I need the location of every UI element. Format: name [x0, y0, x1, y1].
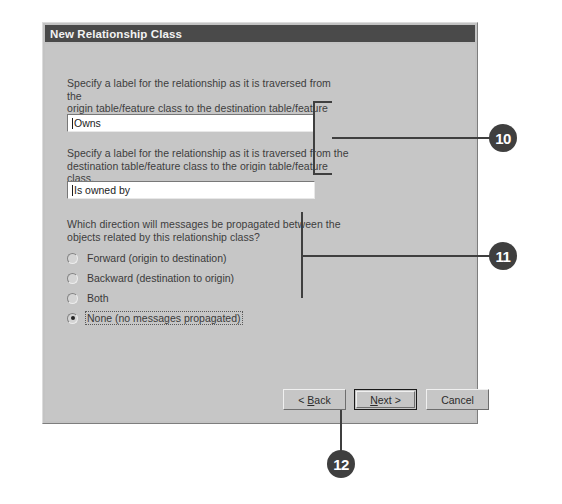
- dialog-client-area: Specify a label for the relationship as …: [45, 44, 475, 421]
- new-relationship-class-dialog: New Relationship Class Specify a label f…: [42, 22, 478, 424]
- radio-option-forward[interactable]: Forward (origin to destination): [67, 248, 243, 268]
- radio-option-label: None (no messages propagated): [85, 311, 243, 325]
- radio-button-icon: [67, 313, 78, 324]
- forward-label-input[interactable]: Owns: [67, 114, 315, 132]
- cancel-button-label: Cancel: [441, 394, 474, 406]
- dialog-titlebar[interactable]: New Relationship Class: [45, 25, 475, 42]
- radio-option-backward[interactable]: Backward (destination to origin): [67, 268, 243, 288]
- back-button-prefix: <: [298, 394, 307, 406]
- callout-10-leader-line: [332, 137, 497, 139]
- radio-button-icon: [67, 293, 78, 304]
- callout-12-leader-line: [340, 410, 342, 455]
- backward-label-input[interactable]: Is owned by: [67, 181, 315, 199]
- callout-10: 10: [489, 124, 517, 152]
- radio-option-none[interactable]: None (no messages propagated): [67, 308, 243, 328]
- message-direction-prompt: Which direction will messages be propaga…: [67, 218, 357, 243]
- radio-option-label: Forward (origin to destination): [85, 251, 228, 265]
- callout-11: 11: [489, 242, 517, 270]
- next-button-accel: N: [370, 394, 378, 406]
- callout-10-bracket-vertical: [313, 101, 315, 175]
- radio-button-icon: [67, 273, 78, 284]
- radio-option-label: Both: [85, 291, 111, 305]
- backward-label-input-value: Is owned by: [74, 184, 130, 196]
- forward-label-input-value: Owns: [74, 117, 101, 129]
- radio-button-icon: [67, 253, 78, 264]
- cancel-button[interactable]: Cancel: [426, 389, 489, 410]
- next-button[interactable]: Next >: [354, 389, 417, 410]
- message-direction-radio-group: Forward (origin to destination) Backward…: [67, 248, 243, 328]
- radio-option-both[interactable]: Both: [67, 288, 243, 308]
- dialog-title: New Relationship Class: [45, 28, 182, 40]
- text-caret: [72, 118, 73, 129]
- radio-option-label: Backward (destination to origin): [85, 271, 236, 285]
- callout-12: 12: [327, 450, 355, 478]
- text-caret: [72, 185, 73, 196]
- back-button-label: ack: [314, 394, 330, 406]
- callout-10-bracket-top: [313, 101, 332, 103]
- next-button-label: ext >: [378, 394, 401, 406]
- callout-11-leader-line: [301, 255, 497, 257]
- callout-10-bracket-bottom: [313, 173, 332, 175]
- back-button[interactable]: < Back: [283, 389, 346, 410]
